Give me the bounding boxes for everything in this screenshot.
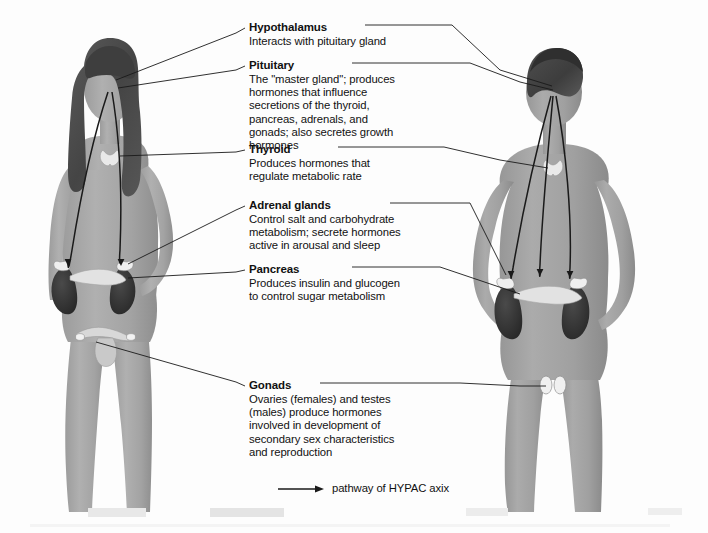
callout-title-pituitary: Pituitary: [249, 59, 395, 72]
male-figure: [473, 48, 635, 512]
callout-body-adrenal-glands: Control salt and carbohydrate metabolism…: [249, 213, 401, 253]
right-arrow-icon: [278, 483, 326, 495]
callout-pituitary: Pituitary The "master gland"; produces h…: [249, 59, 395, 152]
callout-body-thyroid: Produces hormones that regulate metaboli…: [249, 157, 370, 183]
callout-gonads: Gonads Ovaries (females) and testes (mal…: [249, 379, 394, 459]
callout-pancreas: Pancreas Produces insulin and glucogen t…: [249, 263, 400, 303]
female-figure: [49, 38, 174, 512]
callout-body-gonads: Ovaries (females) and testes (males) pro…: [249, 393, 394, 459]
callout-thyroid: Thyroid Produces hormones that regulate …: [249, 143, 370, 183]
legend-text: pathway of HYPAC axix: [332, 482, 449, 495]
callout-body-hypothalamus: Interacts with pituitary gland: [249, 35, 386, 48]
callout-title-adrenal-glands: Adrenal glands: [249, 199, 401, 212]
callout-adrenal-glands: Adrenal glands Control salt and carbohyd…: [249, 199, 401, 253]
bottom-caption-remnant: [0, 508, 708, 533]
callout-body-pituitary: The "master gland"; produces hormones th…: [249, 73, 395, 152]
callout-body-pancreas: Produces insulin and glucogen to control…: [249, 277, 400, 303]
callout-title-gonads: Gonads: [249, 379, 394, 392]
callout-title-thyroid: Thyroid: [249, 143, 370, 156]
legend: pathway of HYPAC axix: [278, 482, 449, 495]
callout-title-pancreas: Pancreas: [249, 263, 400, 276]
diagram-stage: Hypothalamus Interacts with pituitary gl…: [0, 0, 708, 533]
callout-title-hypothalamus: Hypothalamus: [249, 21, 386, 34]
callout-hypothalamus: Hypothalamus Interacts with pituitary gl…: [249, 21, 386, 48]
